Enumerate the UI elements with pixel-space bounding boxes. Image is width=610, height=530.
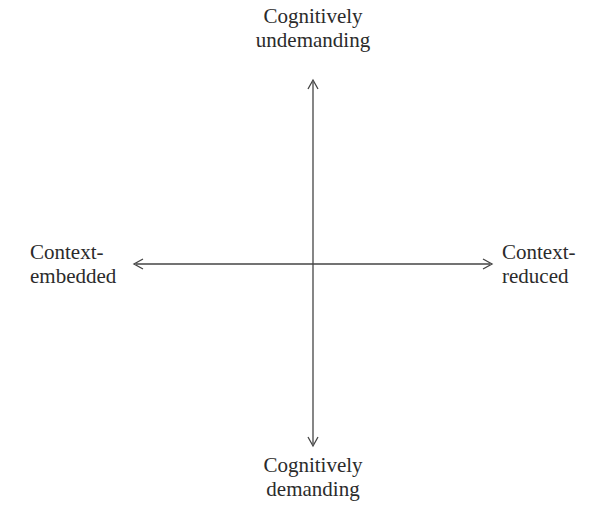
label-cognitively-undemanding: Cognitively undemanding	[256, 4, 370, 52]
label-bottom-line2: demanding	[263, 477, 362, 501]
label-left-line1: Context-	[30, 240, 116, 264]
label-right-line2: reduced	[502, 264, 576, 288]
label-cognitively-demanding: Cognitively demanding	[263, 453, 362, 501]
label-context-embedded: Context- embedded	[30, 240, 116, 288]
label-context-reduced: Context- reduced	[502, 240, 576, 288]
label-top-line1: Cognitively	[256, 4, 370, 28]
label-top-line2: undemanding	[256, 28, 370, 52]
label-left-line2: embedded	[30, 264, 116, 288]
label-right-line1: Context-	[502, 240, 576, 264]
label-bottom-line1: Cognitively	[263, 453, 362, 477]
